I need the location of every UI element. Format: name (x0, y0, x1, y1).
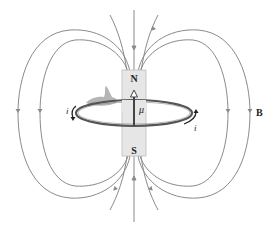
current-label-right: i (194, 123, 197, 133)
north-pole-label: N (130, 73, 138, 84)
dipole-diagram: N S μ i i B (0, 0, 277, 226)
field-label: B (256, 107, 263, 118)
moment-label: μ (138, 104, 144, 115)
current-label-left: i (66, 106, 69, 116)
south-pole-label: S (131, 145, 137, 156)
